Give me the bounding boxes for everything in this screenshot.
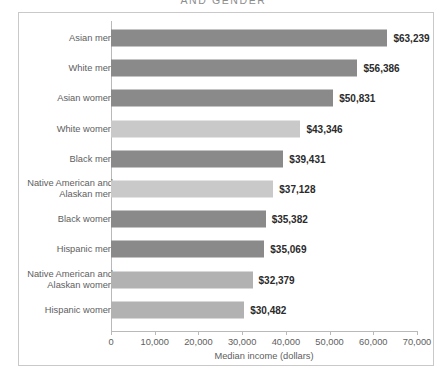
category-label: Asian women bbox=[0, 93, 113, 104]
category-label: Asian men bbox=[0, 33, 113, 44]
x-axis-tick bbox=[373, 331, 374, 335]
bar-row: Native American and Alaskan women$32,379 bbox=[19, 265, 435, 295]
x-axis-tick bbox=[286, 331, 287, 335]
bar bbox=[111, 181, 273, 198]
x-axis-tick bbox=[155, 331, 156, 335]
x-axis-title: Median income (dollars) bbox=[111, 351, 417, 361]
bar-row: Native American and Alaskan men$37,128 bbox=[19, 174, 435, 204]
bar-value-label: $43,346 bbox=[306, 123, 342, 134]
category-label: Black women bbox=[0, 214, 113, 225]
bar bbox=[111, 150, 283, 167]
bar-row: Asian women$50,831 bbox=[19, 83, 435, 113]
bar bbox=[111, 60, 357, 77]
x-axis-tick bbox=[417, 331, 418, 335]
x-axis-tick-label: 60,000 bbox=[359, 337, 387, 347]
bar bbox=[111, 301, 244, 318]
category-label: Native American and Alaskan women bbox=[0, 269, 113, 291]
bar-row: Hispanic women$30,482 bbox=[19, 295, 435, 325]
bar-track bbox=[111, 271, 253, 288]
bar-value-label: $50,831 bbox=[339, 93, 375, 104]
bar-row: Black men$39,431 bbox=[19, 144, 435, 174]
bar-track bbox=[111, 60, 357, 77]
bar-track bbox=[111, 90, 333, 107]
bar bbox=[111, 30, 387, 47]
chart-frame: Asian men$63,239White men$56,386Asian wo… bbox=[18, 12, 434, 366]
x-axis-tick bbox=[111, 331, 112, 335]
bar bbox=[111, 271, 253, 288]
bar bbox=[111, 241, 264, 258]
bar-row: Asian men$63,239 bbox=[19, 23, 435, 53]
bar-row: Hispanic men$35,069 bbox=[19, 234, 435, 264]
plot-area: Asian men$63,239White men$56,386Asian wo… bbox=[19, 13, 435, 367]
x-axis-tick bbox=[330, 331, 331, 335]
x-axis-tick-label: 0 bbox=[108, 337, 113, 347]
bar-value-label: $32,379 bbox=[259, 274, 295, 285]
bar bbox=[111, 120, 300, 137]
x-axis-tick bbox=[242, 331, 243, 335]
bar-value-label: $39,431 bbox=[289, 153, 325, 164]
bar-value-label: $35,382 bbox=[272, 214, 308, 225]
x-axis-tick-label: 20,000 bbox=[184, 337, 212, 347]
bar-value-label: $56,386 bbox=[363, 63, 399, 74]
bar-track bbox=[111, 30, 387, 47]
category-label: Hispanic women bbox=[0, 304, 113, 315]
bar-value-label: $35,069 bbox=[270, 244, 306, 255]
bar-track bbox=[111, 150, 283, 167]
bar-value-label: $63,239 bbox=[393, 33, 429, 44]
bar-track bbox=[111, 211, 266, 228]
bar-value-label: $30,482 bbox=[250, 304, 286, 315]
category-label: White women bbox=[0, 123, 113, 134]
x-axis-tick bbox=[198, 331, 199, 335]
category-label: White men bbox=[0, 63, 113, 74]
x-axis-tick-label: 30,000 bbox=[228, 337, 256, 347]
category-label: Black men bbox=[0, 153, 113, 164]
bar-track bbox=[111, 241, 264, 258]
bar-track bbox=[111, 181, 273, 198]
bar bbox=[111, 90, 333, 107]
bar-row: White women$43,346 bbox=[19, 114, 435, 144]
category-label: Hispanic men bbox=[0, 244, 113, 255]
x-axis-line bbox=[111, 331, 417, 332]
bar-track bbox=[111, 301, 244, 318]
bar-row: Black women$35,382 bbox=[19, 204, 435, 234]
bar-value-label: $37,128 bbox=[279, 184, 315, 195]
chart-title: AND GENDER bbox=[0, 0, 447, 4]
bar bbox=[111, 211, 266, 228]
x-axis-tick-label: 10,000 bbox=[140, 337, 168, 347]
category-label: Native American and Alaskan men bbox=[0, 178, 113, 200]
bar-row: White men$56,386 bbox=[19, 53, 435, 83]
x-axis-tick-label: 50,000 bbox=[315, 337, 343, 347]
x-axis-tick-label: 70,000 bbox=[403, 337, 431, 347]
bar-track bbox=[111, 120, 300, 137]
x-axis-tick-label: 40,000 bbox=[272, 337, 300, 347]
